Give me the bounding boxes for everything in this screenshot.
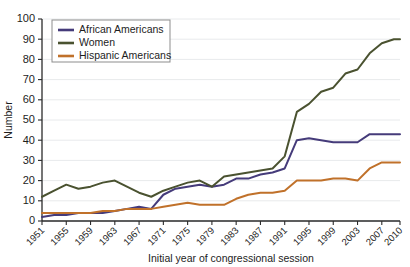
y-tick-label: 60 xyxy=(23,93,35,105)
x-tick-label: 1983 xyxy=(218,225,241,248)
x-tick-label: 1963 xyxy=(97,225,120,248)
legend-label-2: Hispanic Americans xyxy=(79,49,171,61)
legend-label-1: Women xyxy=(79,36,115,48)
x-tick-label: 1967 xyxy=(121,225,144,248)
y-tick-label: 50 xyxy=(23,113,35,125)
chart-page: 0102030405060708090100 19511955195919631… xyxy=(0,0,410,267)
series-line-1 xyxy=(42,39,400,197)
chart-legend: African AmericansWomenHispanic Americans xyxy=(52,20,171,62)
x-tick-label: 1975 xyxy=(169,225,192,248)
x-tick-label: 1987 xyxy=(242,225,265,248)
y-tick-label: 100 xyxy=(17,12,35,24)
x-axis-ticks: 1951195519591963196719711975197919831987… xyxy=(24,221,405,247)
x-axis-title: Initial year of congressional session xyxy=(148,252,314,264)
x-tick-label: 1971 xyxy=(145,225,168,248)
y-tick-label: 0 xyxy=(29,214,35,226)
x-tick-label: 2007 xyxy=(363,225,386,248)
data-series xyxy=(42,39,400,217)
y-tick-label: 80 xyxy=(23,53,35,65)
y-axis-title: Number xyxy=(2,101,14,139)
y-tick-label: 30 xyxy=(23,154,35,166)
y-tick-label: 70 xyxy=(23,73,35,85)
x-tick-label: 1979 xyxy=(194,225,217,248)
y-tick-label: 10 xyxy=(23,194,35,206)
y-tick-label: 20 xyxy=(23,174,35,186)
x-tick-label: 1999 xyxy=(315,225,338,248)
x-tick-label: 1959 xyxy=(72,225,95,248)
x-tick-label: 2003 xyxy=(339,225,362,248)
line-chart: 0102030405060708090100 19511955195919631… xyxy=(0,0,410,267)
x-tick-label: 2010 xyxy=(382,225,405,248)
y-tick-label: 90 xyxy=(23,33,35,45)
series-line-2 xyxy=(42,162,400,213)
x-tick-label: 1991 xyxy=(266,225,289,248)
x-tick-label: 1951 xyxy=(24,225,47,248)
x-tick-label: 1995 xyxy=(291,225,314,248)
legend-label-0: African Americans xyxy=(79,23,164,35)
x-tick-label: 1955 xyxy=(48,225,71,248)
y-tick-label: 40 xyxy=(23,134,35,146)
y-axis-ticks: 0102030405060708090100 xyxy=(17,12,42,226)
